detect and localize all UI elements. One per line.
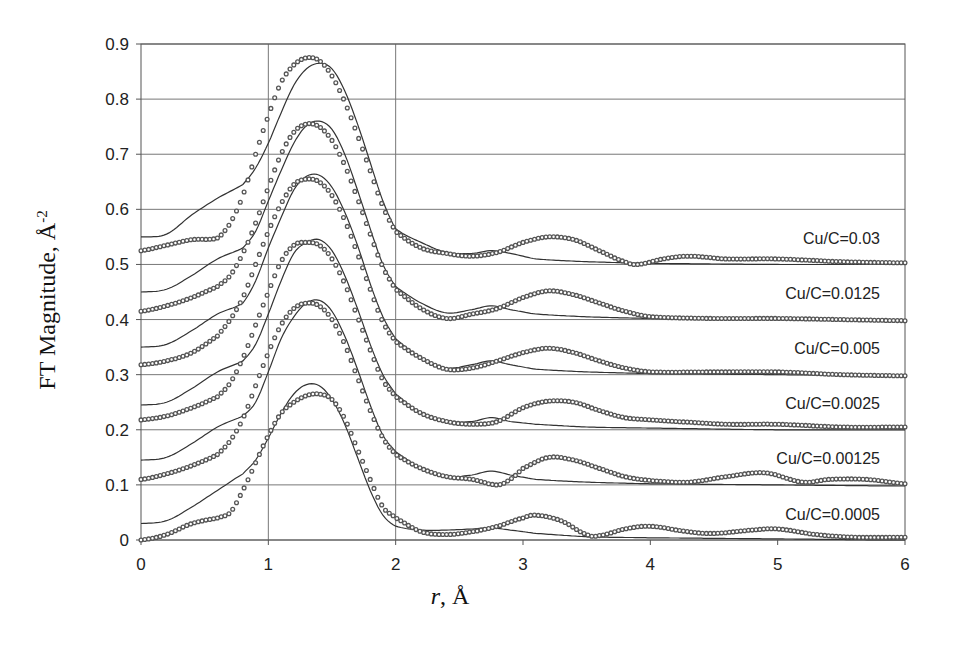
series-label: Cu/C=0.0125 (785, 285, 880, 302)
experiment-point (376, 367, 380, 371)
x-tick-label: 2 (391, 555, 400, 574)
experiment-point (491, 252, 495, 256)
experiment-point (758, 471, 762, 475)
experiment-point (292, 243, 296, 247)
experiment-point (720, 370, 724, 374)
x-tick-label: 1 (264, 555, 273, 574)
experiment-point (815, 479, 819, 483)
experiment-point (250, 273, 254, 277)
experiment-point (258, 253, 262, 257)
experiment-point (452, 421, 456, 425)
experiment-point (815, 424, 819, 428)
experiment-point (223, 229, 227, 233)
experiment-point (265, 189, 269, 193)
experiment-point (372, 243, 376, 247)
experiment-point (368, 409, 372, 413)
ft-magnitude-chart: 00.10.20.30.40.50.60.70.80.90123456 Cu/C… (0, 0, 953, 657)
experiment-point (395, 288, 399, 292)
experiment-point (219, 329, 223, 333)
experiment-point (777, 527, 781, 531)
y-tick-label: 0.5 (105, 255, 129, 274)
experiment-point (361, 211, 365, 215)
experiment-point (216, 285, 220, 289)
experiment-point (246, 344, 250, 348)
experiment-point (223, 445, 227, 449)
experiment-point (204, 290, 208, 294)
experiment-point (231, 377, 235, 381)
experiment-point (452, 476, 456, 480)
experiment-point (605, 411, 609, 415)
experiment-point (300, 58, 304, 62)
experiment-point (284, 252, 288, 256)
experiment-point (834, 260, 838, 264)
experiment-point (384, 508, 388, 512)
experiment-point (288, 247, 292, 251)
experiment-point (284, 72, 288, 76)
experiment-point (330, 257, 334, 261)
experiment-point (338, 152, 342, 156)
experiment-point (242, 414, 246, 418)
experiment-point (349, 116, 353, 120)
experiment-point (380, 434, 384, 438)
experiment-point (376, 191, 380, 195)
experiment-point (403, 401, 407, 405)
experiment-point (357, 379, 361, 383)
experiment-point (387, 331, 391, 335)
experiment-point (471, 254, 475, 258)
experiment-point (399, 398, 403, 402)
experiment-point (624, 475, 628, 479)
experiment-point (365, 277, 369, 281)
series-label: Cu/C=0.03 (803, 230, 880, 247)
experiment-point (567, 292, 571, 296)
experiment-point (815, 372, 819, 376)
experiment-point (273, 336, 277, 340)
experiment-point (422, 308, 426, 312)
experiment-point (853, 535, 857, 539)
experiment-point (258, 374, 262, 378)
experiment-point (319, 60, 323, 64)
experiment-point (372, 180, 376, 184)
experiment-point (185, 298, 189, 302)
experiment-point (361, 266, 365, 270)
experiment-point (284, 406, 288, 410)
y-tick-label: 0.8 (105, 90, 129, 109)
experiment-point (452, 316, 456, 320)
experiment-point (548, 346, 552, 350)
experiment-point (368, 287, 372, 291)
experiment-point (491, 421, 495, 425)
experiment-point (261, 444, 265, 448)
experiment-point (147, 308, 151, 312)
experiment-point (342, 279, 346, 283)
experiment-point (330, 318, 334, 322)
experiment-point (219, 233, 223, 237)
experiment-point (231, 507, 235, 511)
experiment-point (548, 515, 552, 519)
experiment-point (338, 207, 342, 211)
experiment-point (242, 353, 246, 357)
experiment-point (349, 359, 353, 363)
experiment-point (185, 239, 189, 243)
experiment-point (216, 395, 220, 399)
experiment-point (361, 147, 365, 151)
experiment-point (563, 521, 567, 525)
experiment-point (643, 314, 647, 318)
x-tick-label: 6 (900, 555, 909, 574)
experiment-point (166, 532, 170, 536)
experiment-point (258, 313, 262, 317)
experiment-point (238, 200, 242, 204)
experiment-point (223, 388, 227, 392)
y-tick-label: 0.2 (105, 421, 129, 440)
experiment-point (296, 398, 300, 402)
experiment-point (422, 358, 426, 362)
experiment-point (380, 503, 384, 507)
experiment-point (643, 478, 647, 482)
experiment-point (284, 193, 288, 197)
y-axis-title: FT Magnitude, Å-2 (34, 210, 60, 389)
experiment-point (319, 244, 323, 248)
experiment-point (510, 477, 514, 481)
experiment-point (892, 319, 896, 323)
experiment-point (403, 521, 407, 525)
experiment-point (739, 529, 743, 533)
experiment-point (242, 486, 246, 490)
experiment-point (682, 420, 686, 424)
